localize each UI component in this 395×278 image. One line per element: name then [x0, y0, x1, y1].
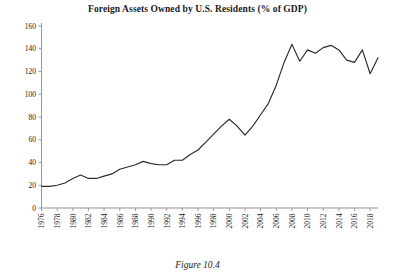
- y-tick-label: 80: [29, 113, 37, 122]
- x-tick-label: 2000: [225, 213, 234, 228]
- x-tick-label: 2006: [272, 213, 281, 228]
- x-tick-label: 2018: [366, 213, 375, 228]
- line-chart-plot: 020406080100120140160 197619781980198219…: [0, 0, 395, 278]
- y-tick-label: 160: [25, 22, 37, 31]
- y-axis: 020406080100120140160: [25, 22, 42, 213]
- x-tick-label: 1978: [53, 213, 62, 228]
- x-tick-label: 1982: [84, 213, 93, 228]
- y-tick-label: 120: [25, 67, 37, 76]
- y-tick-label: 140: [25, 44, 37, 53]
- x-tick-label: 1984: [100, 213, 109, 228]
- x-tick-label: 1976: [37, 213, 46, 228]
- x-tick-label: 2010: [303, 213, 312, 228]
- x-tick-label: 2008: [288, 213, 297, 228]
- x-tick-label: 2012: [319, 213, 328, 228]
- x-tick-label: 1988: [131, 213, 140, 228]
- x-axis: 1976197819801982198419861988199019921994…: [37, 208, 378, 229]
- y-tick-label: 0: [32, 204, 36, 213]
- y-tick-label: 100: [25, 90, 37, 99]
- x-tick-label: 1980: [69, 213, 78, 228]
- x-tick-label: 2002: [241, 213, 250, 228]
- y-tick-label: 20: [29, 181, 37, 190]
- x-tick-label: 1994: [178, 213, 187, 228]
- x-tick-label: 1998: [209, 213, 218, 228]
- x-tick-label: 1986: [116, 213, 125, 228]
- data-series-foreign-assets: [42, 44, 379, 186]
- y-tick-label: 60: [29, 135, 37, 144]
- x-tick-label: 1996: [194, 213, 203, 228]
- y-tick-label: 40: [29, 158, 37, 167]
- x-tick-label: 2004: [256, 213, 265, 228]
- figure-container: Foreign Assets Owned by U.S. Residents (…: [0, 0, 395, 278]
- x-tick-label: 1990: [147, 213, 156, 228]
- x-tick-label: 1992: [163, 213, 172, 228]
- x-tick-label: 2014: [335, 213, 344, 228]
- figure-caption: Figure 10.4: [0, 260, 395, 270]
- x-tick-label: 2016: [350, 213, 359, 228]
- series-line: [42, 44, 379, 186]
